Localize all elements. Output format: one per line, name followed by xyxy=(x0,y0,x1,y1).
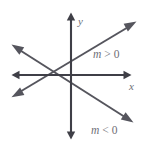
negative-slope-arrow-left xyxy=(12,45,25,55)
x-axis-label: x xyxy=(128,80,134,92)
y-axis-label: y xyxy=(77,15,83,27)
vertical-axis-arrow-bottom xyxy=(67,132,75,140)
positive-slope-relation: > 0 xyxy=(104,48,119,60)
horizontal-axis-arrow-left xyxy=(12,71,20,79)
negative-slope-label: m< 0 xyxy=(91,124,118,136)
negative-slope-variable: m xyxy=(91,124,99,136)
positive-slope-label: m> 0 xyxy=(93,48,120,60)
negative-slope-arrow-right xyxy=(121,112,134,122)
positive-slope-variable: m xyxy=(93,48,101,60)
horizontal-axis-arrow-right xyxy=(124,71,132,79)
diagram-canvas: y x m> 0 m< 0 xyxy=(0,0,143,148)
slope-diagram: y x m> 0 m< 0 xyxy=(0,0,143,148)
vertical-axis-arrow-top xyxy=(67,13,75,21)
positive-slope-arrow-right xyxy=(124,22,137,32)
positive-slope-arrow-left xyxy=(12,87,25,97)
negative-slope-relation: < 0 xyxy=(102,124,117,136)
